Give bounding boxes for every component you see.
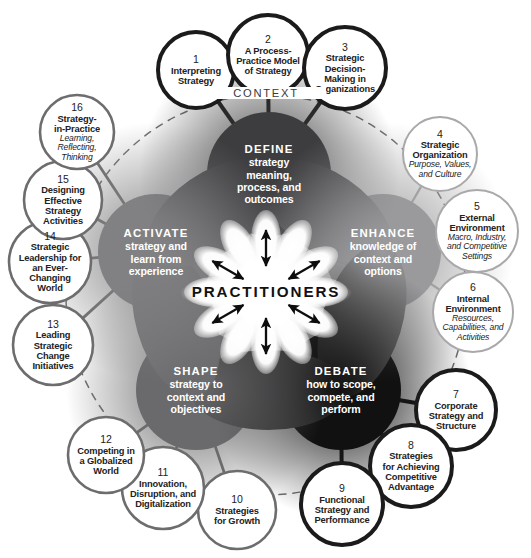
- chapter-circle-9: [301, 463, 383, 545]
- chapter-circle-13: [13, 305, 93, 385]
- chapter-circle-4: [403, 117, 477, 191]
- chapter-circle-3: [304, 27, 386, 109]
- chapter-circle-1: [158, 32, 234, 108]
- chapter-circle-5: [436, 190, 518, 272]
- diagram-canvas: [0, 0, 531, 558]
- chapter-circle-15: [24, 161, 102, 239]
- chapter-circle-12: [68, 417, 144, 493]
- chapter-circle-10: [198, 471, 276, 549]
- chapter-circle-2: [228, 15, 308, 95]
- chapter-circle-16: [40, 95, 114, 169]
- chapter-circle-6: [433, 272, 513, 352]
- strategy-model-diagram: 1InterpretingStrategy2A Process-Practice…: [0, 0, 531, 558]
